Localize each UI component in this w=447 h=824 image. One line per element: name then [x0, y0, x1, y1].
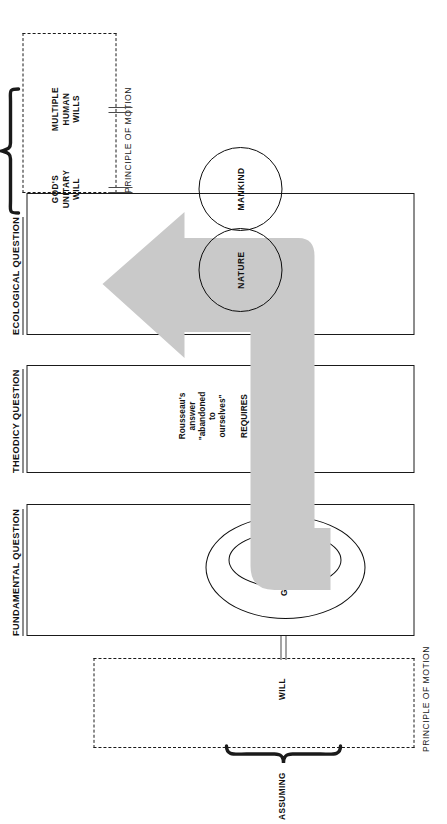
will-label: WILL	[277, 664, 288, 714]
multiple-human-wills-label: MULTIPLE HUMAN WILLS	[50, 80, 82, 138]
nature-circle-label: NATURE	[235, 251, 245, 288]
requires-text: REQUIRES	[238, 394, 248, 438]
human-wills-connector-line-b	[108, 107, 132, 108]
provides-basis-brace	[0, 87, 20, 215]
arrow-line-2: answer	[186, 402, 196, 431]
arrow-line-1: Rousseau's	[176, 393, 186, 440]
will-text: WILL	[277, 678, 288, 700]
principle-of-motion-band-bottom	[93, 658, 414, 748]
nature-circle: NATURE	[198, 228, 282, 312]
gods-will-connector-line-b	[108, 187, 132, 188]
gods-will-line-2: UNITARY	[61, 170, 72, 209]
human-wills-line-1: MULTIPLE	[50, 87, 61, 131]
arrow-line-4: to	[206, 412, 216, 420]
principle-of-motion-label-top: PRINCIPLE OF MOTION	[122, 0, 132, 193]
will-connector-line-b	[285, 636, 286, 660]
gods-unitary-will-label: GOD'S UNITARY WILL	[50, 160, 82, 218]
section-label-ecological: ECOLOGICAL QUESTION	[10, 217, 23, 335]
rousseau-answer-text: Rousseau's answer "abandoned to ourselve…	[176, 370, 226, 462]
assuming-brace	[224, 742, 342, 766]
principle-of-motion-label-bottom: PRINCIPLE OF MOTION	[420, 552, 430, 752]
gods-will-line-1: GOD'S	[50, 175, 61, 203]
mankind-circle: MANKIND	[198, 147, 282, 231]
section-label-fundamental: FUNDAMENTAL QUESTION	[10, 509, 23, 636]
human-wills-line-2: HUMAN	[61, 93, 72, 126]
gods-will-connector-line-a	[108, 192, 132, 193]
gods-will-line-3: WILL	[71, 178, 82, 200]
requires-label: REQUIRES	[238, 370, 248, 462]
mankind-circle-label: MANKIND	[235, 167, 245, 210]
section-label-theodicy: THEODICY QUESTION	[10, 369, 23, 473]
arrow-line-5: ourselves"	[216, 394, 226, 437]
arrow-line-3: "abandoned	[196, 392, 206, 441]
assuming-text: ASSUMING	[277, 772, 288, 820]
human-wills-connector-line-a	[108, 112, 132, 113]
human-wills-line-3: WILLS	[71, 95, 82, 123]
will-connector-line-a	[280, 636, 281, 660]
assuming-label: ASSUMING	[277, 766, 288, 824]
